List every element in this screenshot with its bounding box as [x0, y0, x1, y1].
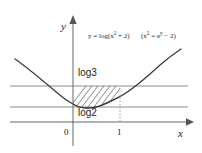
graph-plot [0, 0, 202, 153]
shaded-region-hatching [60, 78, 140, 120]
equation-alt-suffix: − 2) [163, 32, 176, 40]
equation-main-suffix: + 2) [116, 32, 129, 40]
y-axis-label: y [61, 21, 66, 32]
x-axis-label: x [178, 128, 183, 139]
x-axis-arrowhead [186, 118, 194, 125]
log2-level-label: log2 [78, 108, 97, 118]
figure-canvas: y = log(x2 + 2) (x2 = ey − 2) y x 0 1 lo… [0, 0, 202, 153]
origin-tick-label: 0 [64, 128, 69, 137]
y-axis-arrowhead [69, 15, 76, 24]
equation-alt-mid: = e [149, 32, 160, 40]
log-curve [15, 49, 181, 108]
equation-alt-label: (x2 = ey − 2) [141, 31, 176, 40]
equation-main-label: y = log(x2 + 2) [88, 31, 130, 40]
log3-level-label: log3 [78, 68, 97, 78]
x-tick-label-one: 1 [117, 128, 122, 137]
equation-main-prefix: y = log(x [88, 32, 114, 40]
